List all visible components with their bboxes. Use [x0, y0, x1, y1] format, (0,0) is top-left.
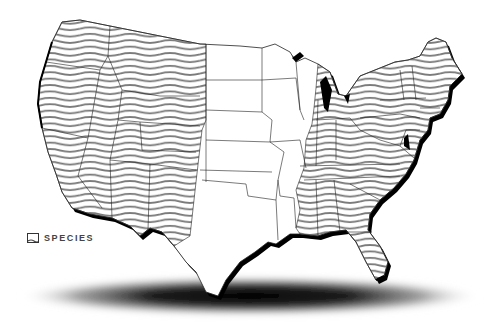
hatched-region-east — [296, 38, 462, 280]
map-body — [38, 20, 462, 296]
us-species-map: SPECIES — [0, 0, 487, 328]
hatched-region-west — [38, 20, 206, 246]
legend-label-species: SPECIES — [44, 233, 94, 243]
map-canvas — [0, 0, 487, 328]
ground-shadow — [18, 276, 482, 316]
wavy-hatch-swatch-icon — [27, 233, 39, 243]
legend: SPECIES — [27, 233, 94, 243]
